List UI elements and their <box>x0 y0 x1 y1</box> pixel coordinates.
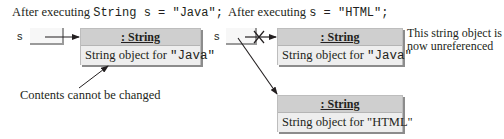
annotation-arrow <box>79 66 108 88</box>
new-reference-arrow <box>238 38 277 94</box>
arrows-overlay <box>0 0 504 139</box>
